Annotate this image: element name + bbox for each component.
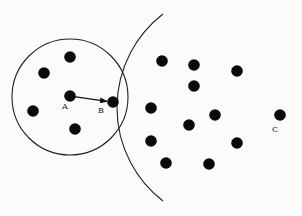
label-b: B xyxy=(98,106,104,115)
point-p12 xyxy=(145,135,157,147)
point-a xyxy=(64,90,76,102)
point-c xyxy=(274,109,286,121)
point-b xyxy=(107,96,119,108)
point-p4 xyxy=(69,123,81,135)
point-p11 xyxy=(183,119,195,131)
point-p14 xyxy=(160,157,172,169)
point-p1 xyxy=(64,51,76,63)
point-p10 xyxy=(209,109,221,121)
point-p7 xyxy=(231,65,243,77)
point-p6 xyxy=(188,59,200,71)
point-p2 xyxy=(38,67,50,79)
label-a: A xyxy=(61,102,68,111)
point-p15 xyxy=(203,158,215,170)
arrow-a-to-b xyxy=(74,97,107,102)
diagram-canvas: A B C xyxy=(0,0,302,216)
label-c: C xyxy=(272,125,278,134)
point-p9 xyxy=(145,102,157,114)
point-p8 xyxy=(188,80,200,92)
point-p13 xyxy=(231,137,243,149)
point-p3 xyxy=(27,105,39,117)
point-p5 xyxy=(156,55,168,67)
